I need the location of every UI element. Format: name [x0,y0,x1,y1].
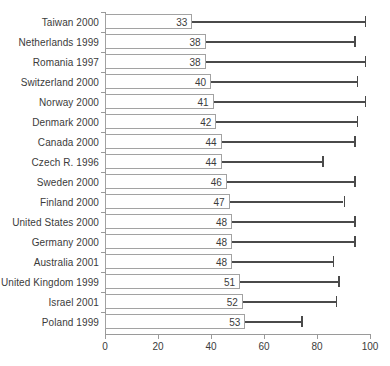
y-axis-tick [101,132,105,133]
whisker-cap [338,276,340,287]
chart-row: Finland 200047 [105,192,370,212]
chart-row: Sweden 200046 [105,172,370,192]
x-axis-tick [370,334,371,339]
chart-row: Romania 199738 [105,52,370,72]
chart-row: Denmark 200042 [105,112,370,132]
category-label: Czech R. 1996 [32,157,99,168]
bar-value-label: 42 [200,116,211,127]
y-axis-tick [101,12,105,13]
chart-row: Israel 200152 [105,292,370,312]
x-axis-tick-label: 60 [258,341,269,352]
category-label: Norway 2000 [39,97,99,108]
y-axis-tick [101,172,105,173]
category-label: United Kingdom 1999 [1,277,99,288]
whisker-cap [344,196,346,207]
whisker-line [211,81,357,83]
chart-row: United States 200048 [105,212,370,232]
x-axis-tick [158,334,159,339]
whisker-cap [365,56,367,67]
category-label: Taiwan 2000 [42,17,99,28]
chart-row: Australia 200148 [105,252,370,272]
x-axis-tick-label: 0 [102,341,108,352]
bar: 48 [105,234,232,249]
chart-row: United Kingdom 199951 [105,272,370,292]
whisker-line [222,141,355,143]
y-axis-tick [101,32,105,33]
whisker-cap [333,256,335,267]
whisker-cap [357,116,359,127]
category-label: Switzerland 2000 [21,77,99,88]
bar-value-label: 40 [195,76,206,87]
whisker-cap [357,76,359,87]
x-axis-tick [264,334,265,339]
bar: 41 [105,94,214,109]
whisker-cap [365,16,367,27]
x-axis-tick [211,334,212,339]
whisker-line [230,201,344,203]
whisker-line [206,61,365,63]
whisker-cap [354,136,356,147]
whisker-line [192,21,364,23]
x-axis-tick-label: 20 [152,341,163,352]
category-label: Sweden 2000 [37,177,99,188]
bar-value-label: 48 [216,216,227,227]
category-label: Germany 2000 [32,237,99,248]
bar: 52 [105,294,243,309]
category-label: Poland 1999 [42,317,99,328]
chart-row: Norway 200041 [105,92,370,112]
x-axis-tick [105,334,106,339]
y-axis-tick [101,232,105,233]
bar: 40 [105,74,211,89]
bar-value-label: 46 [211,176,222,187]
bar-value-label: 48 [216,256,227,267]
bar-value-label: 44 [205,136,216,147]
whisker-cap [301,316,303,327]
whisker-line [227,181,354,183]
category-label: Canada 2000 [38,137,99,148]
chart-row: Czech R. 199644 [105,152,370,172]
bar: 38 [105,54,206,69]
y-axis-tick [101,252,105,253]
bar: 48 [105,254,232,269]
chart-row: Taiwan 200033 [105,12,370,32]
y-axis-tick [101,272,105,273]
y-axis-tick [101,292,105,293]
bar: 44 [105,134,222,149]
chart-row: Netherlands 199938 [105,32,370,52]
x-axis-tick-label: 80 [311,341,322,352]
category-label: Romania 1997 [33,57,99,68]
bar-value-label: 47 [213,196,224,207]
category-label: Israel 2001 [48,297,99,308]
bar: 42 [105,114,216,129]
whisker-line [222,161,323,163]
y-axis-tick [101,312,105,313]
whisker-cap [322,156,324,167]
bar-value-label: 53 [229,316,240,327]
y-axis-tick [101,152,105,153]
category-label: Australia 2001 [34,257,99,268]
bar-value-label: 38 [190,56,201,67]
whisker-cap [354,236,356,247]
category-label: Denmark 2000 [32,117,99,128]
whisker-line [232,241,354,243]
category-label: Finland 2000 [40,197,99,208]
bar-value-label: 48 [216,236,227,247]
whisker-cap [354,216,356,227]
y-axis-tick [101,52,105,53]
chart-row: Canada 200044 [105,132,370,152]
bar: 46 [105,174,227,189]
y-axis-tick [101,212,105,213]
bar-value-label: 52 [227,296,238,307]
whisker-line [232,221,354,223]
bar-value-label: 51 [224,276,235,287]
category-label: United States 2000 [12,217,99,228]
x-axis-tick [317,334,318,339]
y-axis-tick [101,112,105,113]
y-axis-tick [101,92,105,93]
y-axis-tick [101,72,105,73]
bar: 47 [105,194,230,209]
whisker-line [243,301,336,303]
x-axis-tick-label: 40 [205,341,216,352]
whisker-cap [365,96,367,107]
whisker-line [232,261,333,263]
